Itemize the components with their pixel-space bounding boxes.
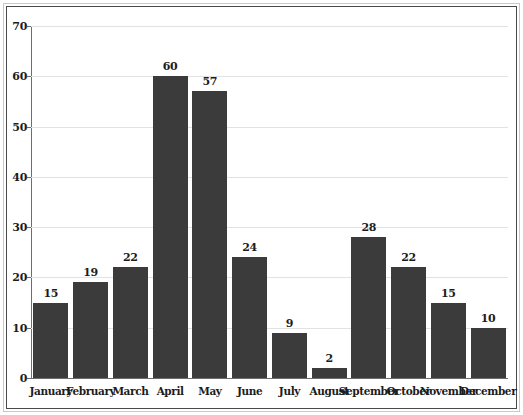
x-axis-tick-label: June: [237, 385, 262, 397]
bar-value-label: 57: [203, 75, 218, 88]
y-axis-tick: [27, 76, 31, 77]
bar[interactable]: [153, 76, 188, 378]
x-axis-tick-label: March: [112, 385, 148, 397]
bar[interactable]: [33, 303, 68, 378]
y-axis-tick: [27, 378, 31, 379]
y-axis-tick: [27, 177, 31, 178]
y-axis-tick-label: 50: [3, 120, 27, 133]
bar-value-label: 19: [83, 266, 98, 279]
bar-value-label: 22: [401, 251, 416, 264]
y-axis-tick-label: 70: [3, 20, 27, 33]
bar[interactable]: [113, 267, 148, 378]
y-axis-tick-label: 10: [3, 321, 27, 334]
plot-area: 1519226057249228221510: [31, 26, 508, 378]
gridline: [31, 76, 508, 77]
bar-value-label: 15: [44, 287, 59, 300]
bar[interactable]: [351, 237, 386, 378]
y-axis-tick: [27, 227, 31, 228]
y-axis-tick-label: 20: [3, 271, 27, 284]
gridline: [31, 227, 508, 228]
y-axis-tick: [27, 127, 31, 128]
gridline: [31, 277, 508, 278]
bar-value-label: 9: [286, 317, 293, 330]
bar[interactable]: [391, 267, 426, 378]
bar-value-label: 2: [325, 352, 332, 365]
bar-value-label: 24: [242, 241, 257, 254]
bar[interactable]: [272, 333, 307, 378]
bar-chart-figure: 1519226057249228221510 010203040506070 J…: [0, 0, 523, 415]
bar[interactable]: [471, 328, 506, 378]
bar[interactable]: [431, 303, 466, 378]
bar[interactable]: [192, 91, 227, 378]
bar-value-label: 28: [362, 221, 377, 234]
x-axis-tick-label: December: [460, 385, 516, 397]
y-axis-tick: [27, 277, 31, 278]
gridline: [31, 177, 508, 178]
x-axis-tick-label: July: [279, 385, 300, 397]
y-axis-tick-label: 0: [3, 372, 27, 385]
bar[interactable]: [73, 282, 108, 378]
y-axis-tick-label: 30: [3, 221, 27, 234]
x-axis-line: [31, 378, 508, 379]
bar[interactable]: [312, 368, 347, 378]
x-axis-tick-label: February: [66, 385, 115, 397]
bar-value-label: 60: [163, 60, 178, 73]
bar-value-label: 15: [441, 287, 456, 300]
bar-value-label: 10: [481, 312, 496, 325]
bar[interactable]: [232, 257, 267, 378]
x-axis-tick-label: April: [157, 385, 184, 397]
y-axis-tick: [27, 328, 31, 329]
y-axis-tick-label: 40: [3, 170, 27, 183]
y-axis-tick: [27, 26, 31, 27]
bar-value-label: 22: [123, 251, 138, 264]
y-axis-tick-label: 60: [3, 70, 27, 83]
gridline: [31, 127, 508, 128]
x-axis-tick-label: May: [198, 385, 221, 397]
gridline: [31, 26, 508, 27]
